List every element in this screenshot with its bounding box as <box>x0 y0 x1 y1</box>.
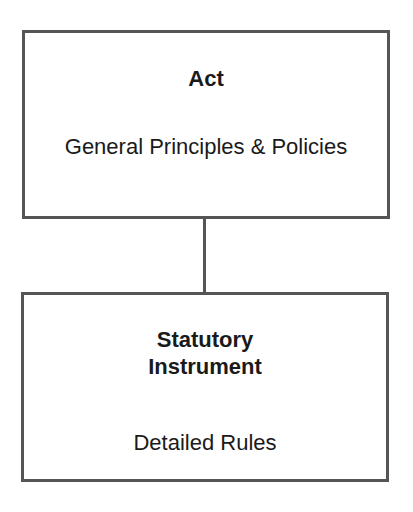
statutory-instrument-description: Detailed Rules <box>24 429 386 456</box>
act-title: Act <box>25 65 387 92</box>
statutory-instrument-node: Statutory Instrument Detailed Rules <box>21 292 389 482</box>
act-to-si-connector <box>203 218 206 293</box>
statutory-instrument-title: Statutory Instrument <box>135 326 275 380</box>
act-node: Act General Principles & Policies <box>22 30 390 219</box>
act-description: General Principles & Policies <box>25 133 387 160</box>
